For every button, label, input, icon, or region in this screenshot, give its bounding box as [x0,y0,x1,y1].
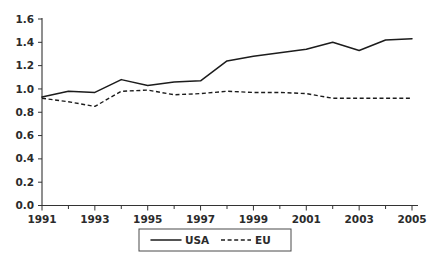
x-tick-label: 2001 [292,213,321,225]
legend-label-eu: EU [255,234,271,246]
y-tick-label: 1.6 [15,13,34,25]
chart-legend: USA EU [139,229,291,251]
x-axis-tick-labels: 19911993199519971999200120032005 [27,213,426,225]
y-axis-tick-labels: 0.00.20.40.60.81.01.21.41.6 [15,13,34,212]
legend-label-usa: USA [185,234,210,246]
x-tick-label: 2003 [345,213,374,225]
y-tick-label: 1.0 [15,83,34,95]
x-tick-label: 1991 [27,213,56,225]
x-tick-label: 1995 [133,213,162,225]
series-line-usa [42,39,412,97]
y-tick-label: 0.8 [15,106,34,118]
x-tick-label: 1993 [80,213,109,225]
line-chart: 0.00.20.40.60.81.01.21.41.6 199119931995… [0,0,429,259]
chart-canvas: 0.00.20.40.60.81.01.21.41.6 199119931995… [0,0,429,259]
x-tick-label: 2005 [397,213,426,225]
x-axis-tick-marks [42,206,412,211]
y-tick-label: 0.6 [15,129,34,141]
y-tick-label: 0.2 [15,176,34,188]
y-axis-tick-marks [38,19,42,206]
x-tick-label: 1997 [186,213,215,225]
y-tick-label: 0.4 [15,152,34,164]
x-tick-label: 1999 [239,213,268,225]
y-tick-label: 0.0 [15,199,34,211]
series-line-eu [42,90,412,106]
y-tick-label: 1.2 [15,59,34,71]
y-tick-label: 1.4 [15,36,34,48]
